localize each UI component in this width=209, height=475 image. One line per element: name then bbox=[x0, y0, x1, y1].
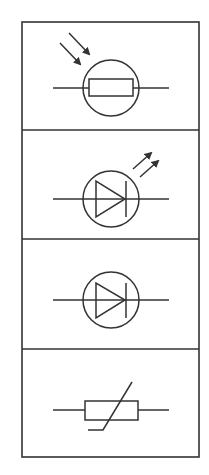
diode-symbol bbox=[53, 272, 169, 328]
ldr-symbol bbox=[53, 33, 169, 116]
led-symbol bbox=[53, 153, 169, 227]
light-in-arrow-icon bbox=[60, 43, 80, 64]
thermistor-symbol bbox=[53, 382, 169, 430]
light-out-arrow-icon bbox=[140, 161, 158, 177]
ldr-resistor-body bbox=[89, 79, 133, 96]
thermistor-diagonal bbox=[88, 382, 132, 430]
component-symbol-table: Electronic component symbols bbox=[0, 0, 209, 475]
ldr-circle bbox=[83, 60, 139, 116]
light-in-arrow-icon bbox=[69, 33, 89, 54]
light-out-arrow-icon bbox=[133, 153, 151, 169]
symbol-grid bbox=[0, 0, 209, 475]
